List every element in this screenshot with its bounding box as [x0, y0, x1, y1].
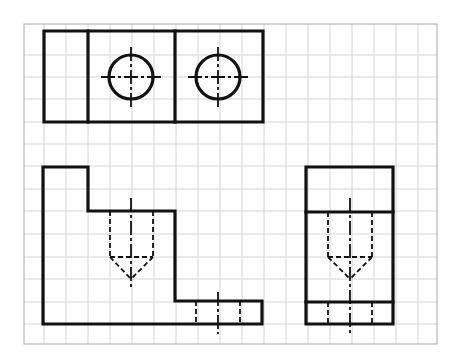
paper-background [0, 0, 460, 363]
technical-drawing-canvas [0, 0, 460, 363]
